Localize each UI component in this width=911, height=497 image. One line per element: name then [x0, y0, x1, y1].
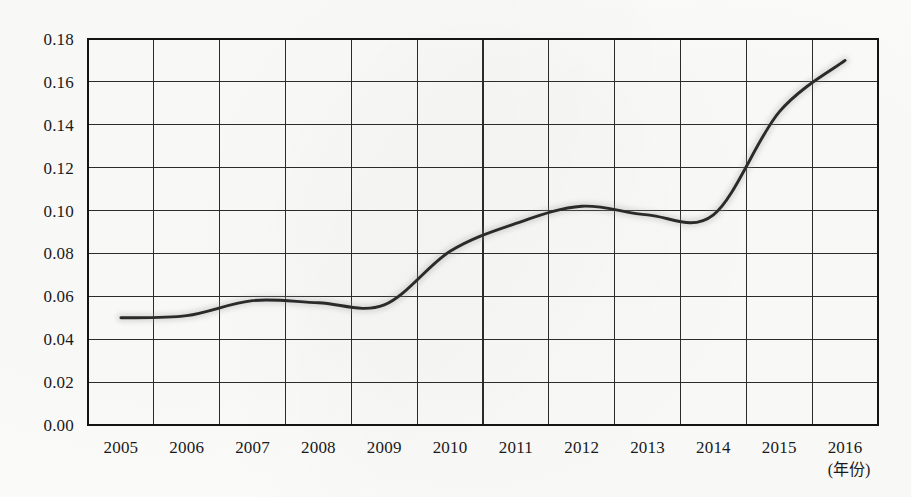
y-tick-label: 0.08 — [43, 244, 74, 263]
y-tick-label: 0.00 — [43, 416, 74, 435]
x-tick-label: 2006 — [169, 438, 204, 457]
x-tick-label: 2007 — [235, 438, 270, 457]
y-tick-labels: 0.000.020.040.060.080.100.120.140.160.18 — [43, 30, 74, 435]
y-tick-label: 0.04 — [43, 330, 74, 349]
x-tick-label: 2009 — [367, 438, 402, 457]
x-tick-label: 2012 — [564, 438, 599, 457]
y-tick-label: 0.16 — [43, 73, 74, 92]
x-tick-label: 2013 — [630, 438, 665, 457]
y-tick-label: 0.10 — [43, 202, 74, 221]
x-tick-label: 2005 — [104, 438, 139, 457]
x-tick-label: 2015 — [762, 438, 797, 457]
x-tick-label: 2010 — [433, 438, 468, 457]
y-tick-label: 0.02 — [43, 373, 74, 392]
y-tick-label: 0.12 — [43, 159, 74, 178]
line-chart: 0.000.020.040.060.080.100.120.140.160.18… — [0, 0, 911, 497]
y-tick-label: 0.06 — [43, 287, 74, 306]
x-tick-label: 2008 — [301, 438, 336, 457]
x-tick-label: 2011 — [499, 438, 533, 457]
y-tick-label: 0.14 — [43, 116, 74, 135]
x-tick-label: 2016 — [828, 438, 863, 457]
x-tick-label: 2014 — [696, 438, 731, 457]
x-tick-labels: 2005200620072008200920102011201220132014… — [104, 438, 863, 457]
x-axis-unit-label: (年份) — [828, 461, 871, 479]
y-tick-label: 0.18 — [43, 30, 74, 49]
chart-page: 0.000.020.040.060.080.100.120.140.160.18… — [0, 0, 911, 497]
